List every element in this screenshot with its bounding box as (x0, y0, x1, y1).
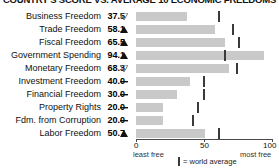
world-average-tick (236, 63, 238, 74)
row-label: Monetary Freedom (0, 62, 101, 75)
chart-row: Fiscal Freedom65.5 (0, 36, 279, 49)
chart-legend: = world average (178, 156, 237, 167)
legend-label-world-average: = world average (183, 157, 237, 166)
world-average-tick-icon (178, 157, 180, 166)
row-label: Fdm. from Corruption (0, 114, 101, 127)
chart-row: Fdm. from Corruption20.0 (0, 114, 279, 127)
chart-row: Trade Freedom58.1 (0, 23, 279, 36)
score-bar (136, 103, 163, 112)
up-triangle-icon (118, 36, 130, 49)
down-triangle-icon (118, 10, 130, 23)
world-average-tick (192, 115, 194, 126)
world-average-tick (232, 24, 234, 35)
score-bar (136, 116, 163, 125)
chart-row: Financial Freedom30.0 (0, 88, 279, 101)
bar-track (136, 77, 272, 86)
bar-track (136, 25, 272, 34)
down-triangle-icon (118, 62, 130, 75)
up-triangle-icon (118, 49, 130, 62)
world-average-tick (224, 50, 226, 61)
row-label: Property Rights (0, 101, 101, 114)
chart-row: Government Spending94.1 (0, 49, 279, 62)
economic-freedoms-bar-chart: Business Freedom37.5Trade Freedom58.1Fis… (0, 0, 279, 168)
world-average-tick (203, 76, 205, 87)
world-average-tick (203, 89, 205, 100)
x-axis-sublabel-least-free: least free (133, 150, 164, 159)
row-label: Financial Freedom (0, 88, 101, 101)
world-average-tick (238, 37, 240, 48)
chart-row: Business Freedom37.5 (0, 10, 279, 23)
up-triangle-icon (118, 23, 130, 36)
bar-track (136, 90, 272, 99)
row-label: Business Freedom (0, 10, 101, 23)
world-average-tick (218, 128, 220, 139)
score-bar (136, 77, 190, 86)
x-axis-label-max: 100 (263, 141, 276, 150)
score-bar (136, 90, 177, 99)
world-average-tick (218, 11, 220, 22)
score-bar (136, 12, 187, 21)
score-bar (136, 25, 215, 34)
bar-track (136, 38, 272, 47)
dash-icon (118, 75, 130, 88)
row-label: Investment Freedom (0, 75, 101, 88)
score-bar (136, 64, 229, 73)
x-axis-label-mid: 50 (200, 141, 209, 150)
world-average-tick (197, 102, 199, 113)
chart-row: Property Rights20.0 (0, 101, 279, 114)
row-label: Trade Freedom (0, 23, 101, 36)
row-label: Labor Freedom (0, 127, 101, 140)
x-axis-sublabel-most-free: most free (240, 150, 271, 159)
up-triangle-icon (118, 127, 130, 140)
row-label: Government Spending (0, 49, 101, 62)
score-bar (136, 38, 225, 47)
bar-track (136, 129, 272, 138)
bar-track (136, 64, 272, 73)
chart-row: Monetary Freedom68.3 (0, 62, 279, 75)
chart-row: Investment Freedom40.0 (0, 75, 279, 88)
row-label: Fiscal Freedom (0, 36, 101, 49)
bar-track (136, 12, 272, 21)
score-bar (136, 129, 205, 138)
dash-icon (118, 114, 130, 127)
dash-icon (118, 101, 130, 114)
dash-icon (118, 88, 130, 101)
x-axis-label-min: 0 (134, 141, 138, 150)
bar-track (136, 103, 272, 112)
bar-track (136, 51, 272, 60)
bar-track (136, 116, 272, 125)
score-bar (136, 51, 264, 60)
